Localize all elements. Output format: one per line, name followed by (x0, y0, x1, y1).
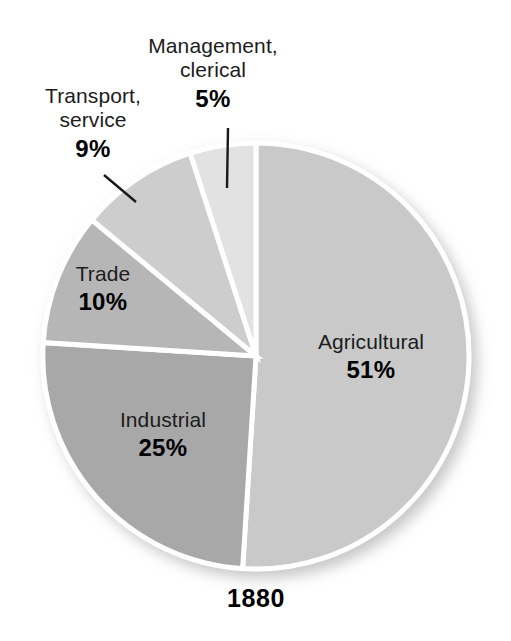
slice-label-industrial-name: Industrial (88, 408, 238, 432)
slice-label-agricultural-name: Agricultural (296, 330, 446, 354)
slice-label-trade-name: Trade (48, 262, 158, 286)
slice-label-trade: Trade 10% (48, 262, 158, 316)
pie-chart: Management, clerical 5% Transport, servi… (0, 0, 511, 641)
leader-line-management-clerical (227, 128, 228, 188)
slice-value-agricultural: 51% (296, 356, 446, 384)
slice-label-agricultural: Agricultural 51% (296, 330, 446, 384)
slice-label-management-clerical-line2: clerical (128, 58, 298, 82)
slice-label-transport-service: Transport, service 9% (18, 84, 168, 163)
slice-value-transport-service: 9% (18, 135, 168, 163)
chart-caption-year: 1880 (186, 584, 326, 613)
slice-value-industrial: 25% (88, 434, 238, 462)
slice-label-transport-service-line2: service (18, 108, 168, 132)
slice-label-industrial: Industrial 25% (88, 408, 238, 462)
slice-label-transport-service-line1: Transport, (18, 84, 168, 108)
slice-label-management-clerical-line1: Management, (128, 34, 298, 58)
slice-value-trade: 10% (48, 288, 158, 316)
